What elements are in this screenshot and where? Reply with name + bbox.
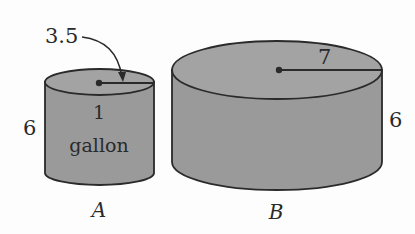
cylinder-b-radius-label: 7	[318, 45, 331, 69]
figure-svg: 3.5 6 1 gallon A 7 6 B	[0, 0, 415, 234]
cylinder-b-height-label: 6	[389, 108, 402, 132]
cylinder-a-height-label: 6	[23, 116, 36, 140]
cylinder-b	[172, 41, 382, 190]
cylinder-b-label: B	[268, 200, 284, 224]
cylinder-a-content-line2: gallon	[69, 134, 128, 156]
cylinders-figure: 3.5 6 1 gallon A 7 6 B	[0, 0, 415, 234]
cylinder-a-content-line1: 1	[93, 101, 105, 123]
cylinder-a-label: A	[90, 198, 106, 222]
cylinder-a-radius-label: 3.5	[45, 24, 78, 48]
